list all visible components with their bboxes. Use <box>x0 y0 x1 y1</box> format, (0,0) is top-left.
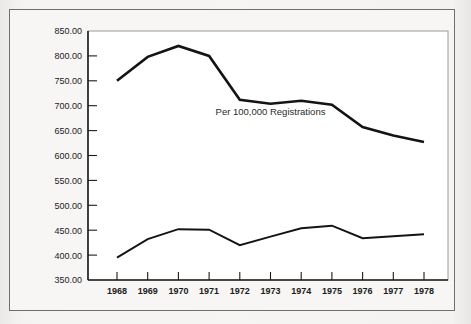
y-axis-tick-label: 850.00 <box>54 26 82 36</box>
x-axis-tick-label: 1975 <box>322 286 342 296</box>
x-axis-tick-labels: 1968196919701971197219731974197519761977… <box>107 286 434 296</box>
line-chart: 350.00400.00450.00500.00550.00600.00650.… <box>0 0 471 324</box>
y-axis-tick-label: 550.00 <box>54 176 82 186</box>
x-axis-tick-label: 1973 <box>260 286 280 296</box>
y-axis-tick-label: 800.00 <box>54 51 82 61</box>
y-axis-tick-label: 350.00 <box>54 275 82 285</box>
chart-page: 350.00400.00450.00500.00550.00600.00650.… <box>0 0 471 324</box>
y-axis-tick-label: 400.00 <box>54 251 82 261</box>
y-axis-tick-label: 450.00 <box>54 226 82 236</box>
x-axis-tick-label: 1972 <box>230 286 250 296</box>
x-axis-tick-label: 1978 <box>414 286 434 296</box>
x-axis-tick-label: 1969 <box>138 286 158 296</box>
y-axis-tick-labels: 350.00400.00450.00500.00550.00600.00650.… <box>54 26 82 285</box>
x-axis-tick-label: 1971 <box>199 286 219 296</box>
x-axis-tick-label: 1976 <box>353 286 373 296</box>
x-axis-tick-label: 1970 <box>168 286 188 296</box>
x-axis-tick-label: 1977 <box>383 286 403 296</box>
y-axis-tick-label: 600.00 <box>54 151 82 161</box>
x-axis-tick-label: 1974 <box>291 286 311 296</box>
chart-annotation: Per 100,000 Registrations <box>216 106 326 117</box>
x-axis-tick-label: 1968 <box>107 286 127 296</box>
y-axis-tick-label: 750.00 <box>54 76 82 86</box>
y-axis-tick-label: 500.00 <box>54 201 82 211</box>
y-axis-tick-label: 700.00 <box>54 101 82 111</box>
y-axis-tick-label: 650.00 <box>54 126 82 136</box>
chart-svg: 350.00400.00450.00500.00550.00600.00650.… <box>0 0 471 324</box>
